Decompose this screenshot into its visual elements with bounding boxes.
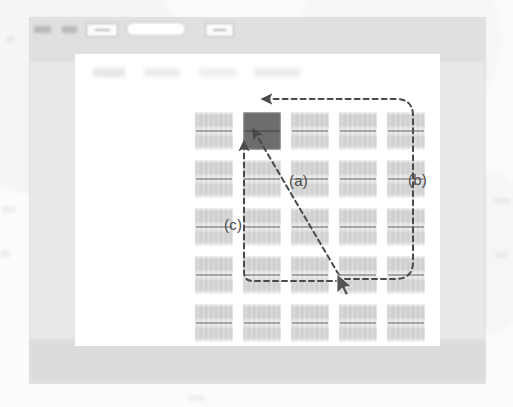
thumbnail-midline [340,226,376,228]
thumbnail-midline [388,322,424,324]
toolbar-item-1[interactable] [34,26,51,33]
thumbnail-cell-selected[interactable] [243,112,281,150]
thumbnail-cell[interactable] [195,160,233,198]
thumbnail-midline [196,130,232,132]
thumbnail-cell[interactable] [339,208,377,246]
thumbnail-cell[interactable] [243,256,281,294]
thumbnail-cell[interactable] [339,112,377,150]
application-window [30,18,485,383]
thumbnail-midline [244,226,280,228]
desktop-ghost-text-5 [495,252,508,258]
thumbnail-cell[interactable] [339,160,377,198]
document-content-panel [75,54,440,346]
thumbnail-cell[interactable] [291,112,329,150]
toolbar-item-4[interactable] [127,23,185,35]
thumbnail-cell[interactable] [387,160,425,198]
thumbnail-midline [196,274,232,276]
desktop-ghost-text-4 [493,198,510,204]
thumbnail-midline [196,226,232,228]
thumbnail-grid[interactable] [195,112,425,342]
thumbnail-cell[interactable] [387,112,425,150]
desktop-ghost-text-2 [2,206,16,213]
thumbnail-midline [340,178,376,180]
screenshot-root: (a)(b)(c) [0,0,513,407]
thumbnail-midline [292,226,328,228]
thumbnail-midline [340,274,376,276]
thumbnail-midline [244,178,280,180]
thumbnail-midline [388,130,424,132]
thumbnail-cell[interactable] [195,256,233,294]
thumbnail-midline [244,130,280,132]
thumbnail-cell[interactable] [195,304,233,342]
thumbnail-cell[interactable] [291,304,329,342]
thumbnail-cell[interactable] [387,256,425,294]
toolbar [30,18,485,48]
thumbnail-midline [292,130,328,132]
desktop-ghost-text-1 [6,36,15,43]
thumbnail-cell[interactable] [243,304,281,342]
thumbnail-midline [340,130,376,132]
thumbnail-cell[interactable] [339,256,377,294]
thumbnail-midline [196,322,232,324]
desktop-ghost-text-6 [188,395,205,401]
thumbnail-midline [292,178,328,180]
thumbnail-midline [244,274,280,276]
thumbnail-cell[interactable] [195,112,233,150]
thumbnail-midline [388,226,424,228]
thumbnail-cell[interactable] [291,208,329,246]
toolbar-item-2[interactable] [62,26,77,33]
thumbnail-midline [292,322,328,324]
thumbnail-midline [388,178,424,180]
thumbnail-midline [292,274,328,276]
thumbnail-midline [340,322,376,324]
thumbnail-midline [196,178,232,180]
toolbar-item-5[interactable] [205,23,234,37]
thumbnail-cell[interactable] [387,208,425,246]
thumbnail-cell[interactable] [387,304,425,342]
panel-header-text [93,68,323,77]
toolbar-item-3[interactable] [86,23,118,37]
thumbnail-cell[interactable] [291,160,329,198]
thumbnail-midline [244,322,280,324]
thumbnail-cell[interactable] [243,208,281,246]
thumbnail-cell[interactable] [243,160,281,198]
thumbnail-cell[interactable] [291,256,329,294]
thumbnail-cell[interactable] [339,304,377,342]
thumbnail-midline [388,274,424,276]
thumbnail-cell[interactable] [195,208,233,246]
desktop-ghost-text-3 [1,250,10,258]
